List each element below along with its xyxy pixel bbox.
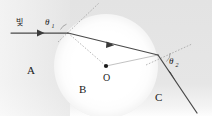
region-a-label: A	[27, 64, 35, 76]
theta2-subscript: 2	[176, 62, 179, 68]
diagram-canvas: 빛 θ 1 θ 2 A B C O	[0, 0, 212, 116]
center-point-label: O	[103, 72, 110, 83]
region-c-label: C	[155, 91, 162, 103]
refraction-diagram: 빛 θ 1 θ 2 A B C O	[0, 0, 212, 116]
center-point-marker-icon	[104, 64, 108, 68]
theta1-label: θ	[45, 17, 50, 27]
theta1-subscript: 1	[52, 23, 55, 29]
light-source-label: 빛	[16, 17, 23, 27]
theta2-label: θ	[169, 56, 174, 66]
region-b-label: B	[79, 83, 86, 95]
